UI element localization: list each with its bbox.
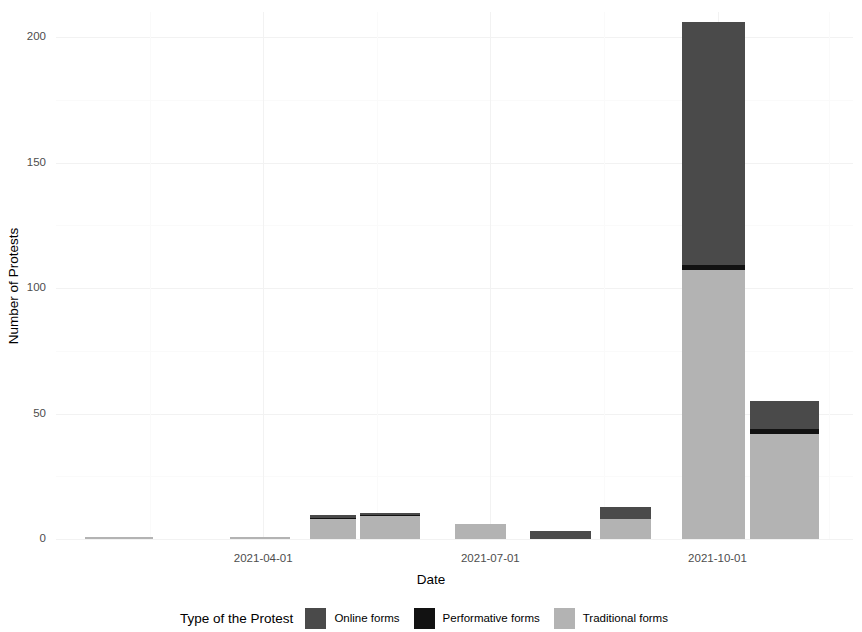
bar-segment-online <box>600 507 650 519</box>
bar-segment-online <box>750 401 819 429</box>
bar-stack <box>682 12 746 539</box>
bar-segment-traditional <box>360 516 421 539</box>
bar-segment-performative <box>360 515 421 516</box>
legend-item[interactable]: Performative forms <box>414 608 540 629</box>
bar-segment-traditional <box>750 434 819 539</box>
bar-segment-traditional <box>230 537 291 540</box>
legend-swatch-icon <box>305 608 326 629</box>
bar-stack <box>600 12 650 539</box>
legend: Type of the Protest Online formsPerforma… <box>0 604 862 632</box>
bar-stack <box>455 12 505 539</box>
bar-segment-online <box>530 531 591 539</box>
legend-item-label: Performative forms <box>443 612 540 624</box>
bar-segment-performative <box>310 518 355 519</box>
x-axis-title-label: Date <box>417 572 446 587</box>
bar-stack <box>750 12 819 539</box>
bar-segment-traditional <box>600 519 650 539</box>
y-axis-tick-label: 0 <box>0 533 46 545</box>
bar-stack <box>530 12 591 539</box>
y-axis-tick-labels: 050100150200 <box>0 12 48 539</box>
legend-swatch-icon <box>554 608 575 629</box>
bar-stack <box>230 12 291 539</box>
bar-segment-traditional <box>682 270 746 539</box>
bar-segment-online <box>360 513 421 516</box>
bar-chart-figure: Number of Protests 050100150200 2021-04-… <box>0 0 862 632</box>
legend-item[interactable]: Traditional forms <box>554 608 668 629</box>
plot-area <box>56 12 853 539</box>
x-axis-tick-label: 2021-04-01 <box>234 552 293 564</box>
legend-items: Online formsPerformative formsTraditiona… <box>305 608 682 629</box>
legend-title: Type of the Protest <box>180 611 293 626</box>
y-axis-tick-label: 150 <box>0 157 46 169</box>
y-axis-tick-label: 200 <box>0 31 46 43</box>
bar-segment-online <box>310 515 355 518</box>
legend-item-label: Traditional forms <box>583 612 668 624</box>
bar-stack <box>85 12 154 539</box>
x-axis-tick-labels: 2021-04-012021-07-012021-10-01 <box>56 552 853 570</box>
bars-layer <box>56 12 853 539</box>
bar-segment-online <box>682 22 746 265</box>
x-axis-tick-label: 2021-10-01 <box>688 552 747 564</box>
legend-item-label: Online forms <box>334 612 399 624</box>
bar-segment-performative <box>682 265 746 270</box>
gridline-major-horizontal <box>56 539 853 540</box>
bar-segment-traditional <box>455 524 505 539</box>
bar-segment-traditional <box>310 519 355 539</box>
bar-stack <box>310 12 355 539</box>
x-axis-title: Date <box>0 572 862 587</box>
bar-segment-performative <box>750 429 819 434</box>
legend-swatch-icon <box>414 608 435 629</box>
y-axis-tick-label: 100 <box>0 282 46 294</box>
legend-item[interactable]: Online forms <box>305 608 399 629</box>
x-axis-tick-label: 2021-07-01 <box>461 552 520 564</box>
bar-stack <box>360 12 421 539</box>
y-axis-tick-label: 50 <box>0 408 46 420</box>
bar-segment-traditional <box>85 537 154 540</box>
